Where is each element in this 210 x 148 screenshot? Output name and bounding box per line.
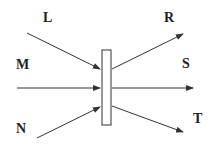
incoming-arrow-n [37,107,100,138]
incoming-arrow-l [27,33,100,69]
central-box [102,50,111,125]
label-t: T [193,111,203,126]
outgoing-arrow-t [112,106,183,132]
ray-diagram: L R M S N T [0,0,210,148]
label-n: N [16,121,26,136]
label-m: M [16,57,29,72]
outgoing-arrow-r [112,34,183,69]
label-r: R [164,10,175,25]
label-s: S [182,56,190,71]
diagram: L R M S N T [0,0,210,148]
label-l: L [43,10,52,25]
